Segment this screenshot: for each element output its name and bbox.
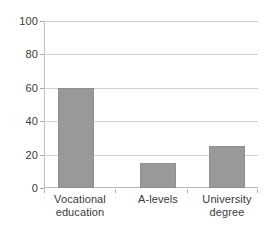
- x-label-line-2: degree: [185, 206, 269, 219]
- x-label-line-2: education: [38, 206, 122, 219]
- bar-chart-figure: 100 80 60 40 20 0 Vocational education: [0, 0, 273, 234]
- y-tick-label-100: 100: [4, 16, 38, 27]
- y-tick-label-80: 80: [4, 49, 38, 60]
- x-label-line-1: University: [185, 193, 269, 206]
- bar-university-degree[interactable]: [209, 146, 245, 188]
- y-axis-tick-labels: 100 80 60 40 20 0: [0, 0, 38, 234]
- gridline-80: [44, 54, 258, 55]
- y-tick-label-60: 60: [4, 83, 38, 94]
- gridline-100: [44, 21, 258, 22]
- bar-a-levels[interactable]: [140, 163, 176, 188]
- y-tick-label-40: 40: [4, 116, 38, 127]
- bar-vocational-education[interactable]: [58, 88, 94, 188]
- x-axis-category-labels: Vocational education A-levels University…: [44, 193, 258, 233]
- y-tick-label-20: 20: [4, 150, 38, 161]
- x-label-line-1: Vocational: [38, 193, 122, 206]
- y-tick-label-0: 0: [4, 183, 38, 194]
- x-label-vocational-education: Vocational education: [38, 193, 122, 219]
- x-label-university-degree: University degree: [185, 193, 269, 219]
- plot-area: [44, 21, 258, 188]
